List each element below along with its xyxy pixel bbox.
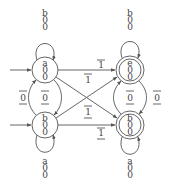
edge-label: 1 <box>98 60 104 70</box>
edge-label: 1 <box>85 75 91 85</box>
state-q2-accepting: e 0 0 <box>116 56 144 84</box>
state-label: 0 <box>127 72 133 82</box>
loop-label: 0 <box>42 170 48 180</box>
loop-label: 0 <box>127 22 133 32</box>
state-diagram: a 0 0 b 0 0 e 0 0 b 0 0 b 0 0 a 0 0 b 0 <box>0 0 169 190</box>
self-loop-q0: b 0 0 <box>36 8 54 60</box>
state-q3-accepting: b 0 0 <box>116 111 144 139</box>
self-loop-q2: b 0 0 <box>121 8 139 58</box>
edge-label-top-straight: 1 <box>97 60 105 70</box>
edge-label-left-outer: 0 <box>19 91 27 104</box>
edge-q2-q3 <box>139 81 147 114</box>
edge-label-bottom-straight: 1 <box>97 128 105 139</box>
edge-q0-q1 <box>54 80 62 115</box>
state-q1: b 0 0 <box>32 112 58 138</box>
edge-label: 0 <box>20 93 26 103</box>
loop-label: 0 <box>127 170 133 180</box>
edge-label-right-outer: 0 <box>153 91 161 104</box>
edge-label-right-inner: 0 <box>126 91 134 104</box>
edge-label-left-inner: 0 <box>41 91 49 104</box>
state-label: 0 <box>42 127 48 137</box>
edge-label: 1 <box>98 128 104 138</box>
edge-label: 0 <box>42 93 48 103</box>
state-label: 0 <box>42 72 48 82</box>
self-loop-q1: a 0 0 <box>36 135 54 180</box>
edge-q3-q2 <box>114 81 122 114</box>
edge-label-cross-upper: 1 <box>84 74 92 85</box>
state-label: 0 <box>127 127 133 137</box>
self-loop-q3: a 0 0 <box>121 137 139 180</box>
edge-label: 0 <box>154 93 160 103</box>
edge-label: 1 <box>85 107 91 117</box>
edge-q1-q0 <box>29 80 37 115</box>
edge-label: 0 <box>127 93 133 103</box>
edge-label-cross-lower: 1 <box>84 106 92 118</box>
state-q0: a 0 0 <box>32 57 58 83</box>
loop-label: 0 <box>42 22 48 32</box>
